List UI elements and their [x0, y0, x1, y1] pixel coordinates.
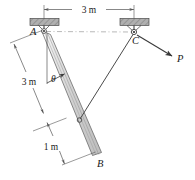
dimension-label-bottom: 1 m: [44, 142, 59, 152]
pin-c-dot: [133, 31, 135, 33]
dimension-top-3m: 3 m: [44, 5, 134, 30]
ceiling-support-right: [120, 19, 149, 26]
ext-line-left-top: [10, 31, 42, 44]
pin-a-dot: [43, 30, 45, 32]
point-a-label: A: [29, 26, 37, 37]
dimension-left-3m: 3 m: [10, 31, 67, 132]
pin-c: [131, 29, 136, 34]
force-arrow-p: P: [137, 35, 184, 64]
point-b-label: B: [97, 158, 104, 169]
ext-line-bottom-right: [62, 152, 96, 165]
ceiling-support-left: [30, 19, 59, 26]
support-block-right: [120, 19, 149, 26]
horizontal-datum-dashed: [46, 32, 132, 33]
dim-line-left-lower: [33, 88, 44, 114]
pin-a: [42, 29, 47, 34]
angle-theta-label: θ: [51, 74, 56, 84]
dim-line-left-upper: [14, 44, 26, 72]
dimension-label-top: 3 m: [82, 5, 97, 15]
point-c-label: C: [132, 35, 140, 46]
bar-centerline-shade: [44, 32, 95, 154]
dimension-label-left: 3 m: [22, 77, 37, 87]
bar-inner-edge-shade: [48, 33, 99, 154]
bar-body: [42, 31, 102, 156]
support-block-left: [30, 19, 59, 26]
slender-bar-ab: [42, 31, 102, 156]
force-p-label: P: [176, 53, 184, 64]
force-p-line: [137, 35, 172, 56]
statics-diagram-figure: 3 m: [0, 0, 195, 180]
cable-line: [80, 35, 133, 120]
cable-c-to-bar: [77, 35, 133, 123]
dim-line-bottom-lower: [60, 151, 65, 164]
